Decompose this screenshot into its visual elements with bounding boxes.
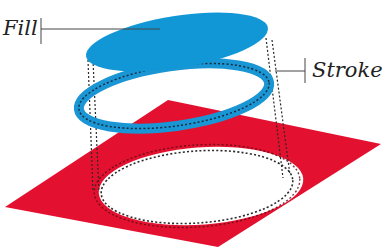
diagram-canvas: Fill Stroke [0,0,387,250]
diagram-graphic [0,0,387,250]
fill-label: Fill [3,18,38,39]
stroke-label: Stroke [312,60,383,81]
